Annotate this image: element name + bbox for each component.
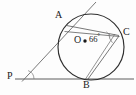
- geometry-figure: [0, 0, 136, 95]
- label-point-b: B: [83, 80, 90, 90]
- center-point-o-dot: [83, 39, 86, 42]
- degree-symbol: °: [98, 33, 100, 39]
- angle-arc-at-p: [28, 71, 34, 79]
- angle-label-66-degrees: 66°: [89, 33, 100, 43]
- label-point-p: P: [7, 71, 13, 81]
- label-point-c: C: [123, 27, 130, 37]
- angle-value-text: 66: [89, 34, 98, 44]
- label-point-o: O: [74, 35, 81, 45]
- label-point-a: A: [55, 10, 62, 20]
- geometry-diagram-canvas: A B C O P 66°: [0, 0, 136, 95]
